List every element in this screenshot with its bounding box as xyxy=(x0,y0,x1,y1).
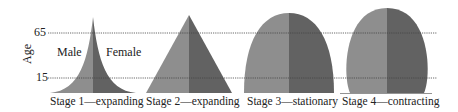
stage-2-pyramid xyxy=(140,0,239,100)
female-half xyxy=(289,0,339,100)
stage-4-pyramid xyxy=(340,0,437,100)
y-axis-title: Age xyxy=(20,44,35,64)
stage-3-label: Stage 3—stationary xyxy=(247,95,338,107)
male-half xyxy=(140,0,189,100)
female-half xyxy=(387,0,437,100)
male-label: Male xyxy=(57,45,82,60)
female-label: Female xyxy=(106,45,141,60)
stage-3-pyramid xyxy=(240,0,339,100)
female-half xyxy=(189,0,239,100)
stage-4-label: Stage 4—contracting xyxy=(342,95,439,107)
tick-15: 15 xyxy=(36,70,48,85)
stage-1-label: Stage 1—expanding xyxy=(50,95,144,107)
male-half xyxy=(340,0,387,100)
male-half xyxy=(240,0,289,100)
tick-65: 65 xyxy=(34,25,46,40)
stage-2-label: Stage 2—expanding xyxy=(146,95,240,107)
